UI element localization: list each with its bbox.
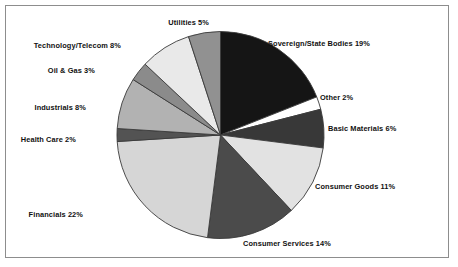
- label-oil-and-gas: Oil & Gas 3%: [48, 67, 95, 74]
- pie-chart-figure: Sovereign/State Bodies 19% Other 2% Basi…: [0, 0, 458, 267]
- label-industrials: Industrials 8%: [34, 104, 86, 111]
- label-financials: Financials 22%: [29, 211, 83, 218]
- label-basic-materials: Basic Materials 6%: [328, 125, 396, 132]
- label-health-care: Health Care 2%: [21, 136, 76, 143]
- pie-slice-financials: [117, 135, 220, 238]
- label-technology-telecom: Technology/Telecom 8%: [34, 42, 121, 49]
- label-other: Other 2%: [320, 94, 353, 101]
- label-sovereign-state-bodies: Sovereign/State Bodies 19%: [268, 40, 370, 47]
- pie-slices-group: [117, 32, 324, 239]
- chart-plot-area: Sovereign/State Bodies 19% Other 2% Basi…: [0, 0, 458, 267]
- label-consumer-goods: Consumer Goods 11%: [315, 183, 395, 190]
- label-consumer-services: Consumer Services 14%: [243, 240, 331, 247]
- label-utilities: Utilities 5%: [168, 19, 209, 26]
